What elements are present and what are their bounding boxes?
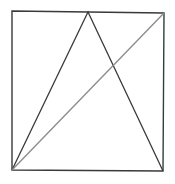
square-diagonal	[12, 13, 164, 170]
geometry-diagram	[0, 0, 175, 184]
